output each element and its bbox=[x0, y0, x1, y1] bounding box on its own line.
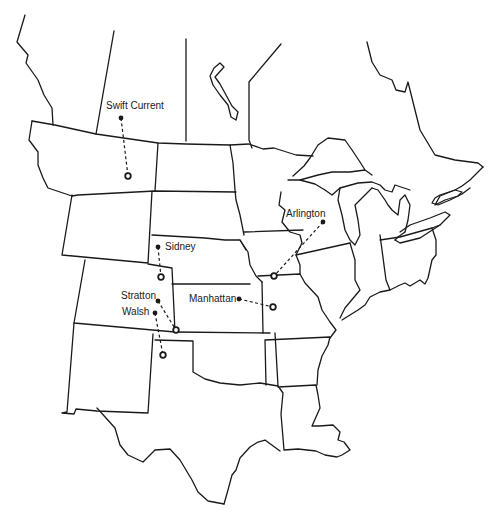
oklahoma bbox=[155, 333, 278, 386]
route-line bbox=[121, 118, 128, 176]
il-wi-border bbox=[296, 243, 350, 255]
ontario-north bbox=[367, 42, 483, 167]
destination-circle-icon bbox=[270, 304, 276, 310]
destination-circle-icon bbox=[271, 273, 277, 279]
texas bbox=[97, 408, 224, 504]
new-mexico bbox=[62, 323, 153, 414]
st-lawrence bbox=[432, 167, 483, 205]
boundaries bbox=[17, 15, 483, 504]
mt-nd-border bbox=[155, 143, 158, 191]
wyoming bbox=[62, 191, 152, 263]
wisconsin bbox=[279, 192, 302, 274]
montana-west bbox=[29, 121, 72, 196]
origin-dot-icon bbox=[156, 245, 161, 250]
site-label-stratton: Stratton bbox=[121, 291, 156, 301]
site-label-manhattan: Manhattan bbox=[189, 294, 236, 304]
michigan-up bbox=[288, 180, 410, 195]
site-swift-current bbox=[119, 116, 131, 179]
illinois bbox=[340, 243, 360, 318]
destination-circle-icon bbox=[173, 327, 179, 333]
site-label-arlington: Arlington bbox=[286, 209, 325, 219]
site-walsh bbox=[153, 311, 166, 358]
arkansas bbox=[265, 337, 330, 385]
origin-dot-icon bbox=[119, 116, 124, 121]
ks-ok-border bbox=[175, 332, 270, 333]
destination-circle-icon bbox=[125, 173, 131, 179]
iowa-mn-border bbox=[244, 230, 303, 232]
site-manhattan bbox=[237, 297, 276, 310]
mb-on-border bbox=[249, 44, 281, 148]
lake-erie bbox=[395, 212, 450, 243]
indiana bbox=[380, 235, 390, 290]
map-canvas bbox=[0, 0, 498, 529]
ab-sk-border bbox=[96, 31, 114, 134]
louisiana bbox=[278, 385, 350, 457]
lake-michigan bbox=[338, 188, 372, 245]
site-label-sidney: Sidney bbox=[165, 242, 196, 252]
ks-mo-border bbox=[262, 282, 263, 333]
nd-mn-border bbox=[230, 145, 244, 235]
texas-gulf bbox=[224, 440, 280, 504]
site-label-walsh: Walsh bbox=[122, 307, 149, 317]
lake-winnipeg bbox=[210, 63, 238, 120]
michigan-lower bbox=[372, 188, 410, 240]
site-sidney bbox=[156, 245, 164, 280]
us-canada-border bbox=[32, 121, 313, 156]
origin-dot-icon bbox=[237, 297, 242, 302]
bc-coast bbox=[17, 15, 53, 125]
site-stratton bbox=[156, 299, 179, 333]
route-line bbox=[158, 247, 161, 277]
route-line bbox=[155, 313, 163, 355]
origin-dot-icon bbox=[153, 311, 158, 316]
route-line bbox=[239, 299, 273, 307]
origin-dot-icon bbox=[156, 299, 161, 304]
origin-dot-icon bbox=[321, 220, 326, 225]
mt-wy-border bbox=[72, 191, 236, 196]
site-label-swift-current: Swift Current bbox=[106, 101, 164, 111]
destination-circle-icon bbox=[160, 352, 166, 358]
lake-ontario bbox=[435, 190, 462, 205]
destination-circle-icon bbox=[158, 274, 164, 280]
lake-superior bbox=[293, 138, 372, 180]
